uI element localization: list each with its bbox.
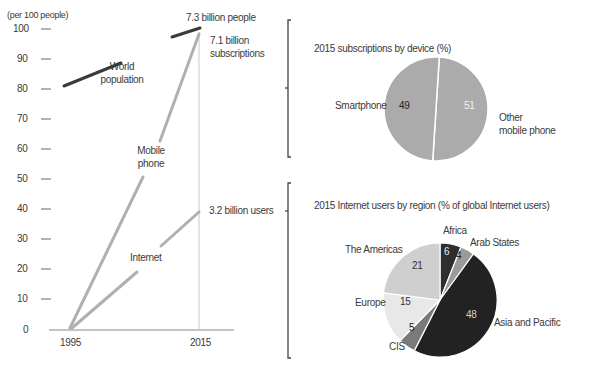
pie-slice-smartphone[interactable] [384, 57, 439, 161]
pie-device-title: 2015 subscriptions by device (%) [314, 43, 451, 54]
y-tick-label: 100 [13, 23, 29, 34]
pie-label-other-mobile-phone: Other mobile phone [499, 111, 555, 137]
pie-value-asia-pacific: 48 [466, 309, 477, 320]
y-tick-label: 20 [17, 263, 28, 274]
pie-value-smartphone: 49 [399, 100, 410, 111]
pie-value-americas: 21 [412, 260, 423, 271]
series-label-internet: Internet [130, 252, 162, 263]
y-tick-label: 10 [17, 293, 28, 304]
pie-label-asia-pacific: Asia and Pacific [494, 317, 560, 328]
y-tick-label: 0 [23, 324, 28, 335]
pie-value-europe: 15 [400, 296, 411, 307]
y-tick-label: 50 [17, 173, 28, 184]
y-tick-label: 80 [17, 83, 28, 94]
pie-region-title: 2015 Internet users by region (% of glob… [314, 200, 550, 211]
pie-label-arab-states: Arab States [470, 237, 519, 248]
annotation-internet-2015: 3.2 billion users [209, 205, 273, 216]
pie-value-arab-states: 4 [456, 250, 461, 261]
x-tick-label-2015: 2015 [190, 337, 211, 348]
y-axis-unit-label: (per 100 people) [7, 10, 68, 20]
internet-line [72, 212, 199, 328]
annotation-subscriptions-2015: 7.1 billion subscriptions [210, 34, 264, 60]
pie-label-africa: Africa [443, 225, 467, 236]
y-tick-label: 60 [17, 143, 28, 154]
series-label-mobile-phone: Mobile phone [126, 144, 176, 170]
y-axis-ticks [41, 29, 51, 299]
y-tick-label: 90 [17, 53, 28, 64]
pie-value-africa: 6 [444, 246, 449, 257]
pie-label-smartphone: Smartphone [335, 100, 386, 111]
world-population-line-end [172, 28, 200, 37]
y-tick-label: 30 [17, 233, 28, 244]
bracket-bottom [285, 183, 291, 358]
pie-slice-other-mobile-phone[interactable] [433, 57, 488, 161]
annotation-population-2015: 7.3 billion people [186, 12, 256, 23]
y-tick-label: 40 [17, 203, 28, 214]
x-tick-label-1995: 1995 [60, 337, 81, 348]
bracket-top [285, 20, 291, 157]
pie-value-cis: 5 [409, 322, 414, 333]
pie-value-other: 51 [464, 100, 475, 111]
pie-label-cis: CIS [389, 341, 405, 352]
y-tick-label: 70 [17, 113, 28, 124]
series-label-world-population: World population [92, 60, 152, 86]
pie-label-americas: The Americas [345, 244, 403, 255]
pie-label-europe: Europe [355, 297, 385, 308]
